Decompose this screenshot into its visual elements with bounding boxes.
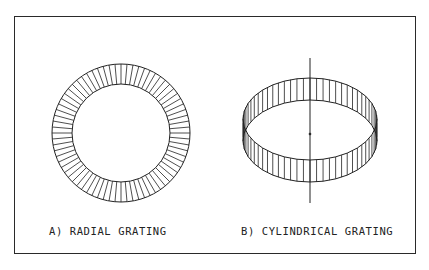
radial-grating-drawing [52,64,190,202]
caption-radial-grating: A) RADIAL GRATING [49,225,167,237]
caption-cylindrical-grating: B) CYLINDRICAL GRATING [241,225,393,237]
cylindrical-grating-drawing [243,58,377,203]
